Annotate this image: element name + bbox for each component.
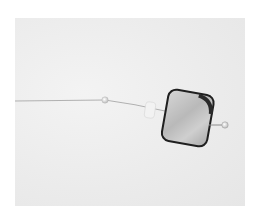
bead-right [222,122,228,128]
photo-canvas [0,0,259,218]
pendant-illustration [15,18,245,206]
shell-pendant [161,88,215,147]
wire [15,100,165,111]
bead-left [102,97,108,103]
spacer-bead [144,101,156,118]
product-photo [15,18,245,206]
